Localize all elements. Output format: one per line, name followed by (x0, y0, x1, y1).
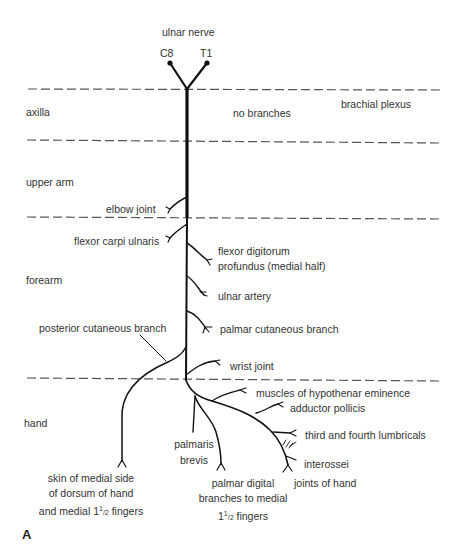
palmaris-brevis-label: palmaris brevis (168, 438, 220, 467)
adductor-pollicis-label: adductor pollicis (290, 402, 365, 415)
region-forearm: forearm (26, 274, 62, 287)
root-c8-label: C8 (160, 47, 173, 60)
region-hand: hand (24, 417, 47, 430)
branch-palmar-cutaneous (187, 311, 205, 327)
branch-adductor (256, 404, 278, 413)
c8-root (170, 63, 187, 89)
ulnar-nerve-diagram (0, 0, 464, 547)
digital-line3: 11/2 fingers (190, 507, 296, 524)
posterior-cutaneous-leader (140, 335, 166, 361)
branch-interossei-small (283, 440, 296, 448)
divider-top-axilla (28, 89, 442, 90)
t1-root (187, 63, 207, 89)
skin-label: skin of medial side of dorsum of hand an… (36, 472, 146, 519)
digital-line2: branches to medial (190, 492, 296, 505)
joints-of-hand-label: joints of hand (294, 477, 356, 490)
divider-elbow (27, 217, 442, 219)
palmaris-brevis-line1: palmaris (168, 438, 220, 451)
fdp-label-2: profundus (medial half) (218, 260, 325, 273)
palmaris-brevis-line2: brevis (168, 454, 220, 467)
digital-line1: palmar digital (190, 477, 296, 490)
elbow-joint-label: elbow joint (106, 203, 156, 216)
title-ulnar-nerve: ulnar nerve (162, 26, 215, 39)
figure-label: A (22, 527, 31, 542)
skin-line3-text: and medial 1 (39, 505, 99, 517)
main-trunk-lower (186, 217, 187, 380)
region-upper-arm: upper arm (26, 176, 74, 189)
branch-fcu (170, 224, 187, 238)
palmar-cutaneous-label: palmar cutaneous branch (220, 323, 339, 336)
branch-elbow-joint (170, 197, 187, 209)
branch-palmaris-brevis (193, 396, 195, 432)
divider-axilla-upperarm (27, 140, 442, 143)
branch-joints-of-hand (283, 465, 292, 472)
skin-line3-end: fingers (109, 505, 143, 517)
digital-line3-end: fingers (234, 510, 268, 522)
brachial-plexus-label: brachial plexus (341, 98, 411, 111)
region-axilla: axilla (26, 106, 50, 119)
root-t1-label: T1 (200, 47, 212, 60)
interossei-label: interossei (304, 458, 349, 471)
skin-line3: and medial 11/2 fingers (36, 502, 146, 519)
skin-line2: of dorsum of hand (36, 487, 146, 500)
skin-line1: skin of medial side (36, 472, 146, 485)
wrist-joint-label: wrist joint (230, 360, 274, 373)
branch-wrist-joint (186, 361, 215, 375)
no-branches-label: no branches (233, 107, 291, 120)
digital-label: palmar digital branches to medial 11/2 f… (190, 477, 296, 524)
c8-dot (167, 60, 172, 65)
ulnar-artery-label: ulnar artery (218, 290, 271, 303)
lumbricals-label: third and fourth lumbricals (305, 429, 426, 442)
fcu-label: flexor carpi ulnaris (74, 235, 159, 248)
fdp-label-1: flexor digitorum (218, 245, 290, 258)
divider-wrist (27, 378, 442, 381)
posterior-cutaneous-label: posterior cutaneous branch (39, 322, 166, 335)
hypothenar-label: muscles of hypothenar eminence (256, 387, 410, 400)
branch-fdp (187, 243, 207, 260)
branch-lumbricals (273, 432, 290, 433)
branch-hypothenar (212, 390, 240, 401)
t1-dot (204, 60, 209, 65)
